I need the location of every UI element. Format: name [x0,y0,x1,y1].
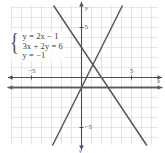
x-tick-5: 5 [130,67,134,75]
y-tick-5: 5 [85,23,89,31]
coordinate-plane [0,0,165,153]
graph-figure: { y = 2x − 1 3x + 2y = 6 y = −1 y y x 5 … [0,0,165,153]
equation-line-1: y = 2x − 1 [22,32,62,41]
equation-line-3: y = −1 [22,51,62,60]
y-tick-negative-5: −5 [85,123,92,131]
y-axis-label-top: y [85,4,88,12]
system-of-equations-box: { y = 2x − 1 3x + 2y = 6 y = −1 [9,31,65,61]
brace-glyph: { [10,30,19,60]
x-axis-label: x [157,77,160,85]
y-axis-label-bottom: y [79,147,82,153]
x-tick-negative-5: −5 [28,67,35,75]
